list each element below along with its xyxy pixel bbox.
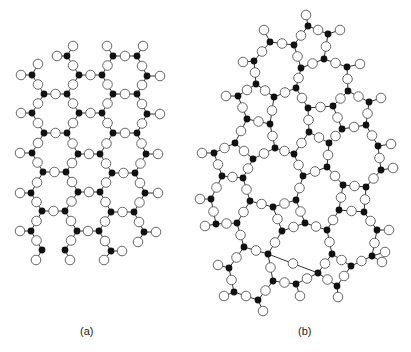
silicon-atom (110, 53, 117, 60)
silicon-atom (302, 220, 309, 227)
panel-b-label: (b) (298, 325, 311, 337)
oxygen-atom (280, 199, 290, 209)
oxygen-atom (354, 92, 364, 102)
oxygen-atom (103, 99, 113, 109)
silicon-atom (234, 220, 241, 227)
oxygen-atom (357, 256, 367, 266)
oxygen-atom (52, 51, 62, 61)
oxygen-atom (117, 246, 127, 256)
oxygen-atom (134, 217, 144, 227)
oxygen-atom (137, 139, 147, 149)
silicon-atom (28, 228, 35, 235)
silicon-atom (241, 244, 248, 251)
oxygen-atom (239, 207, 249, 217)
oxygen-atom (66, 236, 76, 246)
silicon-atom (144, 73, 151, 80)
silicon-atom (253, 81, 260, 88)
silicon-atom (99, 110, 106, 117)
oxygen-atom (296, 207, 306, 217)
silicon-atom (108, 209, 115, 216)
oxygen-atom (260, 86, 270, 96)
silicon-atom (363, 122, 370, 129)
silicon-atom (40, 169, 47, 176)
oxygen-atom (32, 178, 42, 188)
oxygen-atom (336, 94, 346, 104)
silicon-atom (247, 198, 254, 205)
oxygen-atom (50, 167, 60, 177)
oxygen-atom (328, 215, 338, 225)
oxygen-atom (220, 143, 230, 153)
silicon-atom (63, 169, 70, 176)
silicon-atom (326, 140, 333, 147)
silicon-atom (213, 221, 220, 228)
silicon-atom (251, 58, 258, 65)
oxygen-atom (137, 80, 147, 90)
oxygen-atom (316, 102, 326, 112)
oxygen-atom (363, 109, 373, 119)
silicon-atom (143, 151, 150, 158)
oxygen-atom (360, 195, 370, 205)
silicon-atom (232, 140, 239, 147)
silicon-atom (293, 197, 300, 204)
oxygen-atom (83, 226, 93, 236)
silicon-atom (305, 23, 312, 30)
oxygen-atom (331, 131, 341, 141)
oxygen-atom (302, 274, 312, 284)
oxygen-atom (236, 126, 246, 136)
oxygen-atom (155, 71, 165, 81)
oxygen-atom (367, 131, 377, 141)
silicon-atom (64, 91, 71, 98)
oxygen-atom (228, 172, 238, 182)
oxygen-atom (280, 278, 290, 288)
oxygen-atom (137, 61, 147, 71)
oxygen-atom (295, 183, 305, 193)
oxygen-atom (339, 271, 349, 281)
oxygen-atom (257, 47, 267, 57)
silicon-atom (293, 281, 300, 288)
oxygen-atom (273, 214, 283, 224)
silicon-atom (291, 151, 298, 158)
oxygen-atom (241, 291, 251, 301)
oxygen-atom (67, 158, 77, 168)
oxygen-atom (84, 149, 94, 159)
oxygen-atom (236, 230, 246, 240)
oxygen-atom (155, 109, 165, 119)
silicon-atom (324, 227, 331, 234)
silicon-atom (211, 150, 218, 157)
oxygen-atom (68, 41, 78, 51)
oxygen-atom (195, 194, 205, 204)
oxygen-atom (33, 158, 43, 168)
panel-a-label: (a) (80, 325, 93, 337)
oxygen-atom (289, 222, 299, 232)
oxygen-atom (68, 61, 78, 71)
silicon-atom (267, 39, 274, 46)
silicon-atom (330, 103, 337, 110)
oxygen-atom (15, 188, 25, 198)
silicon-atom (97, 189, 104, 196)
silicon-atom (39, 208, 46, 215)
oxygen-atom (259, 149, 269, 159)
oxygen-atom (66, 216, 76, 226)
oxygen-atom (213, 260, 223, 270)
silicon-atom (76, 72, 83, 79)
oxygen-atom (227, 275, 237, 285)
oxygen-atom (101, 159, 111, 169)
oxygen-atom (384, 225, 394, 235)
silicon-atom (99, 72, 106, 79)
oxygen-atom (380, 247, 390, 257)
oxygen-atom (243, 164, 253, 174)
oxygen-atom (314, 133, 324, 143)
silicon-atom (142, 190, 149, 197)
oxygen-atom (15, 226, 25, 236)
oxygen-atom (103, 61, 113, 71)
oxygen-atom (310, 167, 320, 177)
oxygen-atom (137, 119, 147, 129)
oxygen-atom (250, 68, 260, 78)
oxygen-atom (259, 25, 269, 35)
oxygen-atom (267, 106, 277, 116)
oxygen-atom (323, 275, 333, 285)
oxygen-atom (336, 193, 346, 203)
oxygen-atom (335, 25, 345, 35)
oxygen-atom (294, 160, 304, 170)
silicon-atom (108, 248, 115, 255)
